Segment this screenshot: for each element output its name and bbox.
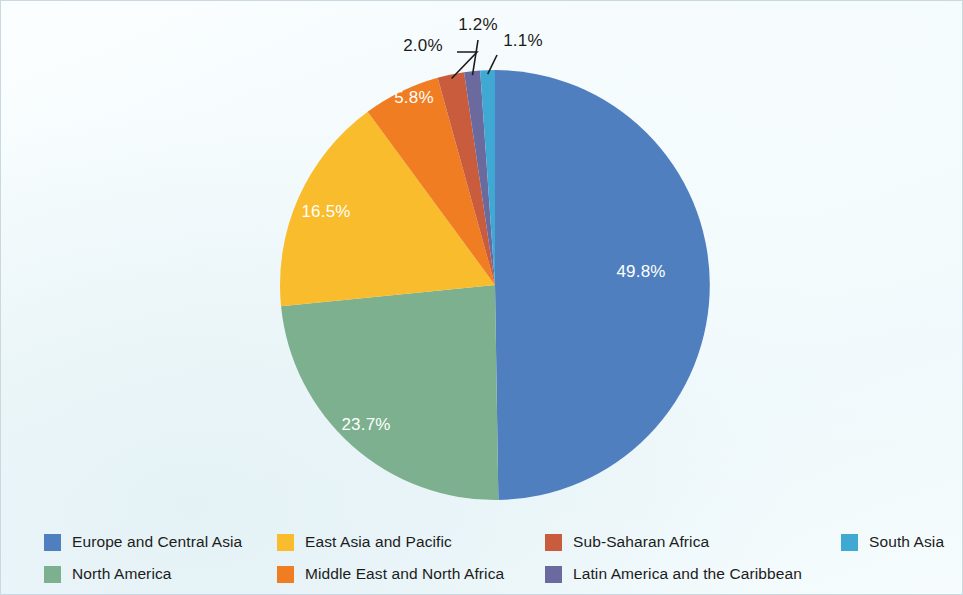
legend-row-bottom: North America Middle East and North Afri…	[0, 559, 963, 589]
legend-item-sub-saharan-africa[interactable]: Sub-Saharan Africa	[545, 527, 709, 557]
callout-value-south-asia: 1.1%	[503, 31, 543, 51]
legend-item-east-asia-and-pacific[interactable]: East Asia and Pacific	[277, 527, 452, 557]
pie-slice-group	[280, 70, 710, 500]
legend-swatch-icon-latin-america-and-the-caribbean	[545, 566, 562, 583]
legend-row-top: Europe and Central Asia East Asia and Pa…	[0, 527, 963, 557]
legend-label-europe-and-central-asia: Europe and Central Asia	[72, 533, 242, 551]
legend-swatch-icon-sub-saharan-africa	[545, 534, 562, 551]
slice-value-middle-east-and-north-africa: 5.8%	[394, 88, 434, 108]
leader-line-latin-america	[473, 40, 479, 75]
pie-slice-europe-and-central-asia[interactable]	[495, 70, 710, 500]
callout-value-sub-saharan-africa: 2.0%	[403, 36, 443, 56]
legend-swatch-icon-middle-east-and-north-africa	[277, 566, 294, 583]
legend-item-europe-and-central-asia[interactable]: Europe and Central Asia	[44, 527, 242, 557]
callout-value-latin-america: 1.2%	[458, 15, 498, 35]
legend-item-middle-east-and-north-africa[interactable]: Middle East and North Africa	[277, 559, 504, 589]
legend-item-south-asia[interactable]: South Asia	[841, 527, 944, 557]
legend-label-sub-saharan-africa: Sub-Saharan Africa	[573, 533, 709, 551]
legend-swatch-icon-europe-and-central-asia	[44, 534, 61, 551]
chart-legend: Europe and Central Asia East Asia and Pa…	[0, 516, 963, 595]
slice-value-north-america: 23.7%	[341, 415, 390, 435]
legend-swatch-icon-north-america	[44, 566, 61, 583]
legend-swatch-icon-south-asia	[841, 534, 858, 551]
pie-chart-area: 49.8% 23.7% 16.5% 5.8% 2.0% 1.2% 1.1%	[0, 0, 963, 512]
legend-swatch-icon-east-asia-and-pacific	[277, 534, 294, 551]
slice-value-europe-and-central-asia: 49.8%	[616, 262, 665, 282]
pie-slice-north-america[interactable]	[281, 285, 498, 500]
legend-label-middle-east-and-north-africa: Middle East and North Africa	[305, 565, 504, 583]
legend-item-north-america[interactable]: North America	[44, 559, 172, 589]
legend-label-south-asia: South Asia	[869, 533, 944, 551]
pie-chart-svg	[0, 0, 963, 512]
slice-value-east-asia-and-pacific: 16.5%	[301, 202, 350, 222]
legend-item-latin-america-and-the-caribbean[interactable]: Latin America and the Caribbean	[545, 559, 802, 589]
legend-label-north-america: North America	[72, 565, 172, 583]
legend-label-latin-america-and-the-caribbean: Latin America and the Caribbean	[573, 565, 802, 583]
chart-page: 49.8% 23.7% 16.5% 5.8% 2.0% 1.2% 1.1% Eu…	[0, 0, 963, 595]
legend-label-east-asia-and-pacific: East Asia and Pacific	[305, 533, 452, 551]
